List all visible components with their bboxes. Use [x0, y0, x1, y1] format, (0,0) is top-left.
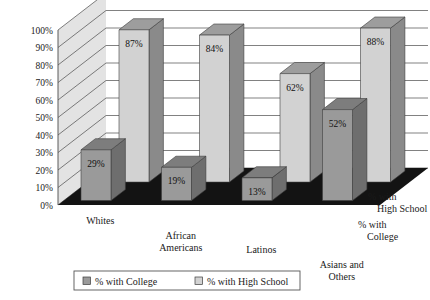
- bar-front-face: [81, 150, 111, 201]
- bar-college-0: [81, 139, 125, 201]
- depth-axis-label-1: College: [367, 231, 399, 242]
- y-tick-30: 30%: [36, 148, 54, 158]
- legend-label-0: % with College: [95, 276, 158, 287]
- value-label-highschool-1: 84%: [206, 44, 224, 54]
- depth-axis-label-0: % with: [368, 191, 397, 202]
- depth-axis-label-0: High School: [377, 203, 428, 214]
- value-label-college-0: 29%: [87, 159, 105, 169]
- value-label-college-1: 19%: [168, 176, 186, 186]
- category-label-2: Latinos: [246, 244, 276, 255]
- bar-college-3: [323, 99, 367, 201]
- legend-swatch-1: [195, 277, 203, 285]
- value-label-highschool-2: 62%: [286, 83, 304, 93]
- y-tick-0: 0%: [40, 201, 53, 211]
- bar-highschool-2: [280, 63, 324, 183]
- depth-axis-labels: % withHigh School% withCollege: [358, 191, 428, 242]
- legend-swatch-0: [83, 277, 91, 285]
- y-tick-50: 50%: [36, 113, 54, 123]
- bar-side-face: [391, 17, 405, 182]
- y-tick-70: 70%: [36, 78, 54, 88]
- bar-side-face: [230, 24, 244, 182]
- chart-legend: % with College% with High School: [74, 271, 300, 290]
- category-label-3: Asians and: [320, 259, 364, 270]
- value-label-highschool-3: 88%: [367, 37, 385, 47]
- bar-side-face: [353, 99, 367, 201]
- category-label-1: African: [166, 230, 197, 241]
- y-tick-40: 40%: [36, 131, 54, 141]
- legend-label-1: % with High School: [207, 276, 289, 287]
- y-tick-10: 10%: [36, 183, 54, 193]
- y-tick-100: 100%: [31, 26, 53, 36]
- y-tick-90: 90%: [36, 43, 54, 53]
- value-label-college-3: 52%: [329, 119, 347, 129]
- category-label-1: Americans: [159, 242, 202, 253]
- y-tick-20: 20%: [36, 166, 54, 176]
- y-tick-80: 80%: [36, 61, 54, 71]
- y-axis-tick-labels: 0%10%20%30%40%50%60%70%80%90%100%: [31, 26, 53, 211]
- value-label-highschool-0: 87%: [125, 39, 143, 49]
- bar-side-face: [149, 19, 163, 182]
- category-label-0: Whites: [86, 215, 114, 226]
- depth-axis-label-1: % with: [358, 219, 387, 230]
- category-label-3: Others: [328, 271, 355, 282]
- bar-chart-3d: 0%10%20%30%40%50%60%70%80%90%100% Whites…: [0, 0, 430, 300]
- chart-container: 0%10%20%30%40%50%60%70%80%90%100% Whites…: [0, 0, 430, 300]
- y-tick-60: 60%: [36, 96, 54, 106]
- value-label-college-2: 13%: [248, 187, 266, 197]
